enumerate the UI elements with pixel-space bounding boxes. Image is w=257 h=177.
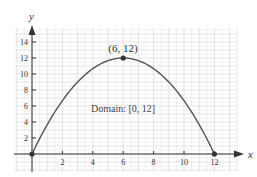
data-point (29, 151, 34, 156)
x-axis-label: x (247, 148, 253, 160)
y-tick-label: 2 (24, 134, 28, 143)
x-tick-label: 10 (180, 158, 188, 167)
x-tick-label: 8 (152, 158, 156, 167)
vertex-label: (6, 12) (108, 42, 138, 55)
data-point (121, 55, 126, 60)
y-tick-label: 4 (24, 118, 28, 127)
parabola-chart: x y 246810122468101214 (6, 12) Domain: [… (0, 0, 257, 177)
y-tick-label: 14 (20, 38, 28, 47)
y-tick-label: 12 (20, 54, 28, 63)
y-axis-label: y (28, 10, 34, 22)
x-tick-label: 2 (60, 158, 64, 167)
y-tick-label: 8 (24, 86, 28, 95)
domain-annotation: Domain: [0, 12] (91, 103, 155, 114)
x-axis-arrow-icon (234, 151, 244, 158)
x-tick-label: 12 (210, 158, 218, 167)
y-tick-label: 10 (20, 70, 28, 79)
x-tick-label: 6 (121, 158, 125, 167)
y-tick-label: 6 (24, 102, 28, 111)
data-point (212, 151, 217, 156)
x-tick-label: 4 (91, 158, 95, 167)
